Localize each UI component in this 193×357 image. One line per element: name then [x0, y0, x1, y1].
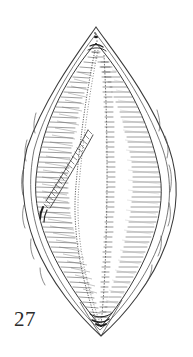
inner-valve-outline	[36, 43, 162, 327]
figure-plate: 27	[0, 0, 193, 357]
figure-number-label: 27	[14, 309, 36, 330]
diatom-illustration	[0, 0, 193, 357]
